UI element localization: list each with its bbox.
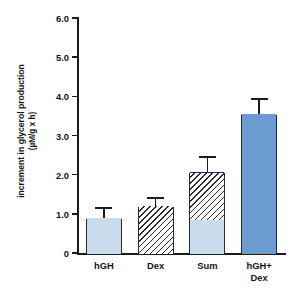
y-axis-tick-label: 1.0 xyxy=(56,208,69,219)
x-axis-tick-label-line: hGH+ xyxy=(246,260,271,271)
y-axis-tick-label: 3.0 xyxy=(56,130,69,141)
x-axis-tick-label-line: Dex xyxy=(147,260,164,271)
bar-segment xyxy=(242,114,276,253)
error-bar xyxy=(258,98,260,115)
y-axis-title-line1: increment in glycerol production xyxy=(16,64,26,198)
bar-group: hGH xyxy=(78,18,130,253)
error-bar-cap xyxy=(95,207,112,209)
bar[interactable] xyxy=(189,173,225,253)
bar-segment xyxy=(87,218,121,254)
error-bar xyxy=(207,156,209,172)
chart-figure: increment in glycerol production (µM/g x… xyxy=(0,0,299,299)
bar-segment xyxy=(190,218,224,254)
x-axis-tick-label-line: hGH xyxy=(94,260,114,271)
y-axis-tick-label: 4.0 xyxy=(56,91,69,102)
y-axis-title: increment in glycerol production (µM/g x… xyxy=(10,0,44,262)
bar-group: Sum xyxy=(182,18,234,253)
error-bar-cap xyxy=(251,98,268,100)
bar-group: Dex xyxy=(130,18,182,253)
x-axis-tick-label-line: Sum xyxy=(197,260,217,271)
y-axis-tick-label: 6.0 xyxy=(56,13,69,24)
bar-group: hGH+Dex xyxy=(233,18,285,253)
plot-area: 6.05.04.03.02.01.00 hGHDexSumhGH+Dex xyxy=(78,18,285,253)
y-axis-tick-label: 2.0 xyxy=(56,169,69,180)
y-axis-tick-label: 5.0 xyxy=(56,52,69,63)
x-axis-tick-label-line: Dex xyxy=(219,272,299,284)
y-axis-tick-label: 0 xyxy=(64,248,69,259)
bar-segment xyxy=(139,206,173,253)
error-bar-cap xyxy=(199,156,216,158)
bar-segment xyxy=(190,172,224,220)
bar[interactable] xyxy=(241,115,277,253)
y-axis-title-units: (µM/g x h) xyxy=(27,64,38,198)
bar[interactable] xyxy=(86,219,122,253)
bar[interactable] xyxy=(138,207,174,253)
error-bar-cap xyxy=(147,197,164,199)
x-axis-tick-label: hGH+Dex xyxy=(219,260,299,283)
